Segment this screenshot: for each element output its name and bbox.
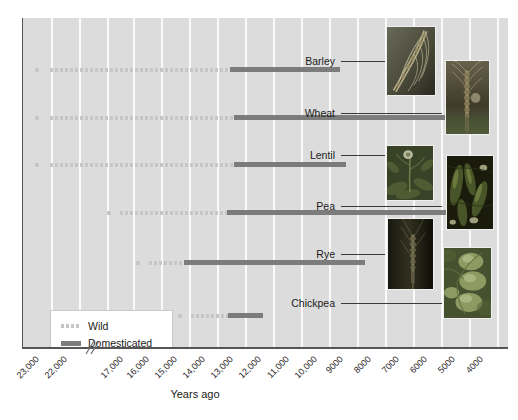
xtick-label: 22,000 bbox=[38, 354, 69, 385]
bar-lentil-wild bbox=[50, 163, 234, 167]
xtick-label: 12,000 bbox=[232, 354, 263, 385]
gridline bbox=[357, 18, 359, 348]
bar-lentil-domesticated bbox=[234, 162, 346, 167]
crop-label-barley: Barley bbox=[265, 55, 335, 67]
xtick-label: 17,000 bbox=[94, 354, 125, 385]
leader-line-barley bbox=[341, 61, 385, 62]
bar-barley-wild-point bbox=[35, 68, 39, 72]
bar-wheat-wild-point bbox=[35, 116, 39, 120]
leader-line-lentil bbox=[341, 155, 385, 156]
bar-pea-wild bbox=[120, 211, 227, 215]
leader-line-pea bbox=[341, 206, 442, 207]
xtick-label: 5000 bbox=[430, 354, 457, 381]
bar-pea-wild-point bbox=[107, 211, 111, 215]
xtick-label: 15,000 bbox=[148, 354, 179, 385]
xtick-label: 8000 bbox=[346, 354, 373, 381]
axis-break-icon bbox=[84, 340, 102, 356]
bar-wheat-wild bbox=[50, 116, 234, 120]
bar-barley-wild bbox=[50, 68, 230, 72]
bar-chickpea-wild-point bbox=[178, 314, 182, 318]
legend-swatch-wild-icon bbox=[61, 324, 81, 328]
x-axis-title: Years ago bbox=[0, 388, 390, 400]
xtick-label: 9000 bbox=[318, 354, 345, 381]
xtick-label: 10,000 bbox=[288, 354, 319, 385]
legend-entry-wild: Wild bbox=[61, 319, 108, 333]
crop-label-pea: Pea bbox=[265, 200, 335, 212]
bar-rye-wild bbox=[149, 261, 184, 265]
legend: Wild Domesticated bbox=[50, 310, 173, 348]
bar-chickpea-domesticated bbox=[228, 313, 263, 318]
xtick-label: 11,000 bbox=[260, 354, 291, 385]
bar-lentil-wild-point bbox=[35, 163, 39, 167]
xtick-label: 23,000 bbox=[10, 354, 41, 385]
crop-label-rye: Rye bbox=[265, 248, 335, 260]
barley-spike-photo bbox=[386, 26, 436, 96]
gridline bbox=[497, 18, 499, 348]
crop-label-lentil: Lentil bbox=[265, 149, 335, 161]
wheat-spike-photo bbox=[445, 60, 490, 135]
legend-swatch-domesticated-icon bbox=[61, 341, 81, 346]
leader-line-wheat bbox=[341, 113, 442, 114]
bar-rye-domesticated bbox=[184, 260, 365, 265]
crop-label-chickpea: Chickpea bbox=[255, 297, 335, 309]
leader-line-chickpea bbox=[341, 303, 442, 304]
xtick-label: 4000 bbox=[458, 354, 485, 381]
bar-rye-wild-point bbox=[136, 261, 140, 265]
crop-label-wheat: Wheat bbox=[265, 107, 335, 119]
xtick-label: 14,000 bbox=[176, 354, 207, 385]
chickpea-pods-photo bbox=[443, 247, 492, 319]
lentil-plant-photo bbox=[386, 145, 434, 201]
rye-spike-photo bbox=[387, 218, 434, 290]
xtick-label: 13,000 bbox=[204, 354, 235, 385]
domestication-timeline-figure: Wild Domesticated Barley Wheat Lentil Pe… bbox=[0, 0, 518, 420]
xtick-label: 16,000 bbox=[120, 354, 151, 385]
leader-line-rye bbox=[341, 254, 385, 255]
bar-chickpea-wild bbox=[191, 314, 228, 318]
bar-pea-domesticated bbox=[227, 210, 466, 215]
bar-barley-domesticated bbox=[230, 67, 340, 72]
pea-pods-photo bbox=[446, 155, 494, 230]
legend-label-wild: Wild bbox=[88, 320, 108, 332]
xtick-label: 6000 bbox=[402, 354, 429, 381]
xtick-label: 7000 bbox=[374, 354, 401, 381]
